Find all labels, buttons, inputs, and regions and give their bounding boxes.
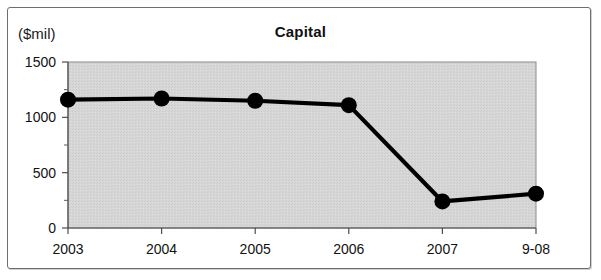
x-axis-tick-label: 9-08 [501, 242, 571, 256]
x-axis-ticks [68, 228, 536, 234]
data-point-marker [154, 91, 170, 107]
data-point-marker [434, 193, 450, 209]
y-axis-ticks [62, 62, 68, 228]
plot-background [68, 62, 536, 228]
y-axis-tick-label: 1500 [10, 55, 56, 69]
plot-area [68, 62, 536, 228]
y-axis-tick-label: 1000 [10, 110, 56, 124]
data-point-marker [528, 186, 544, 202]
data-point-marker [341, 97, 357, 113]
x-axis-tick-label: 2005 [220, 242, 290, 256]
plot-canvas [0, 0, 601, 280]
y-axis-tick-label: 500 [10, 166, 56, 180]
data-point-marker [247, 93, 263, 109]
y-axis-tick-label: 0 [10, 221, 56, 235]
x-axis-tick-label: 2003 [33, 242, 103, 256]
data-point-marker [60, 92, 76, 108]
x-axis-tick-label: 2006 [314, 242, 384, 256]
capital-line-chart: ($mil) Capital 050010001500 200320042005… [0, 0, 601, 280]
x-axis-tick-label: 2007 [407, 242, 477, 256]
x-axis-tick-label: 2004 [127, 242, 197, 256]
